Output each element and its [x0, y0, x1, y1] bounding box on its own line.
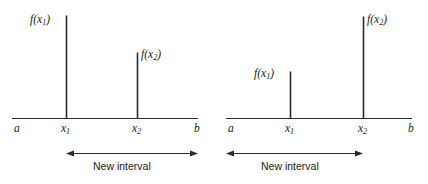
axis-label-b-right: b [408, 123, 414, 135]
new-interval-label-right: New interval [261, 161, 319, 172]
new-interval-label-left: New interval [93, 161, 151, 172]
label-fx1-right: f(x1) [254, 68, 274, 81]
label-fx2-right: f(x2) [367, 14, 387, 27]
new-interval-arrow-left [66, 150, 198, 156]
label-fx1-left: f(x1) [30, 14, 50, 27]
panel-left: f(x1) f(x2) a x1 x2 b New interval [0, 0, 214, 184]
tick-label-x1-left: x1 [61, 123, 70, 136]
tick-label-x2-right: x2 [358, 123, 367, 136]
new-interval-arrow-right [226, 150, 363, 156]
axis-label-a-left: a [14, 123, 20, 135]
panel-right: f(x1) f(x2) a x1 x2 b New interval [214, 0, 428, 184]
interval-reduction-figure: f(x1) f(x2) a x1 x2 b New interval [0, 0, 428, 184]
panel-right-graphics [214, 0, 428, 184]
panel-left-graphics [0, 0, 214, 184]
axis-label-a-right: a [228, 123, 234, 135]
label-fx2-left: f(x2) [141, 49, 161, 62]
tick-label-x1-right: x1 [285, 123, 294, 136]
axis-label-b-left: b [194, 123, 200, 135]
tick-label-x2-left: x2 [132, 123, 141, 136]
